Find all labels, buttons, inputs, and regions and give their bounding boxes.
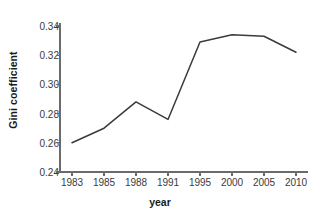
x-axis-title: year xyxy=(0,196,320,208)
data-series xyxy=(72,35,296,143)
gini-coefficient-line-chart: Gini coefficient 0.240.260.280.300.320.3… xyxy=(0,0,320,217)
plot-area xyxy=(0,0,320,217)
series-line-gini-coefficient xyxy=(72,35,296,143)
axis-lines xyxy=(60,23,308,172)
